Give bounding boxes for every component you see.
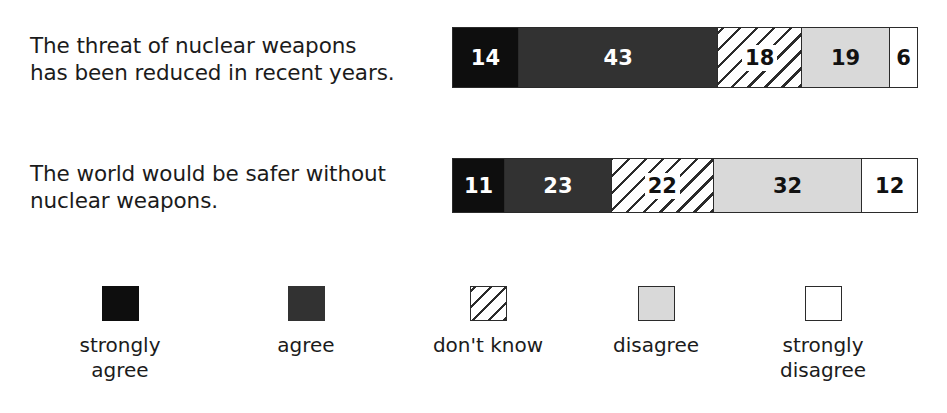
bar-segment-disagree: 32 xyxy=(713,159,861,212)
chart-figure: The threat of nuclear weapons has been r… xyxy=(0,0,947,413)
question-label-line-1: The threat of nuclear weapons xyxy=(30,33,356,58)
question-label-line-2: has been reduced in recent years. xyxy=(30,60,394,85)
segment-value: 18 xyxy=(742,45,777,71)
legend-label: don't know xyxy=(433,333,543,358)
segment-value: 11 xyxy=(464,174,493,198)
legend-label: disagree xyxy=(613,333,699,358)
legend-swatch-strongly-agree-icon xyxy=(102,286,139,321)
segment-value: 14 xyxy=(471,46,500,70)
question-label: The threat of nuclear weapons has been r… xyxy=(30,32,440,86)
legend-swatch-agree-icon xyxy=(288,286,325,321)
legend-swatch-disagree-icon xyxy=(638,286,675,321)
segment-value: 43 xyxy=(604,46,633,70)
legend-label: strongly disagree xyxy=(780,333,866,383)
legend-swatch-dont-know-icon xyxy=(470,286,507,321)
segment-value: 19 xyxy=(831,46,860,70)
question-label-line-2: nuclear weapons. xyxy=(30,188,218,213)
bar-segment-dont-know: 22 xyxy=(611,159,713,212)
bar-segment-strongly-disagree: 6 xyxy=(889,28,917,87)
stacked-bar: 11 23 22 32 12 xyxy=(452,158,918,213)
bar-segment-strongly-agree: 14 xyxy=(453,28,518,87)
bar-segment-strongly-agree: 11 xyxy=(453,159,504,212)
segment-value: 6 xyxy=(896,46,911,70)
legend-item-strongly-disagree: strongly disagree xyxy=(743,286,903,383)
legend-item-dont-know: don't know xyxy=(408,286,568,358)
bar-segment-disagree: 19 xyxy=(801,28,889,87)
legend-item-agree: agree xyxy=(226,286,386,358)
stacked-bar: 14 43 18 19 6 xyxy=(452,27,918,88)
legend-item-disagree: disagree xyxy=(576,286,736,358)
legend-item-strongly-agree: strongly agree xyxy=(40,286,200,383)
question-label: The world would be safer without nuclear… xyxy=(30,160,440,214)
legend-swatch-strongly-disagree-icon xyxy=(805,286,842,321)
segment-value: 23 xyxy=(543,174,572,198)
legend-label: strongly agree xyxy=(79,333,160,383)
segment-value: 12 xyxy=(875,174,904,198)
question-label-line-1: The world would be safer without xyxy=(30,161,386,186)
bar-segment-agree: 23 xyxy=(504,159,611,212)
segment-value: 22 xyxy=(645,173,680,199)
segment-value: 32 xyxy=(773,174,802,198)
chart-legend: strongly agree agree don't know disagree… xyxy=(0,286,947,413)
legend-label: agree xyxy=(277,333,334,358)
bar-segment-agree: 43 xyxy=(518,28,718,87)
bar-segment-strongly-disagree: 12 xyxy=(861,159,917,212)
bar-segment-dont-know: 18 xyxy=(717,28,801,87)
